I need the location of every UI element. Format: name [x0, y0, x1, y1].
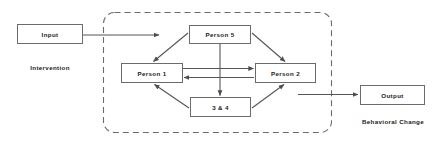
node-person2-label: Person 2 [271, 70, 300, 77]
edge-group34-to-person2 [252, 85, 284, 109]
node-person2[interactable]: Person 2 [255, 63, 316, 83]
node-person1-label: Person 1 [138, 70, 167, 77]
edge-group34-to-person1 [155, 85, 190, 109]
diagram-canvas: Input Person 5 Person 1 Person 2 3 & 4 O… [0, 0, 441, 149]
caption-behavioral-change: Behavioral Change [351, 118, 435, 125]
node-input-label: Input [42, 31, 59, 38]
node-group-3-and-4-label: 3 & 4 [212, 104, 229, 111]
node-person5-label: Person 5 [206, 31, 235, 38]
caption-intervention: Intervention [10, 64, 90, 71]
node-person1[interactable]: Person 1 [121, 63, 183, 83]
edge-person5-to-person2 [252, 33, 285, 62]
node-person5[interactable]: Person 5 [189, 25, 251, 44]
node-input[interactable]: Input [17, 24, 83, 44]
edge-person5-to-person1 [154, 33, 189, 62]
diagram-vector-layer [0, 0, 441, 149]
node-group-3-and-4[interactable]: 3 & 4 [190, 97, 251, 117]
node-output-label: Output [381, 92, 403, 99]
node-output[interactable]: Output [360, 85, 425, 105]
